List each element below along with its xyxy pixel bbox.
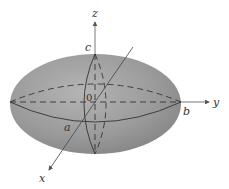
intercept-a-label: a	[64, 121, 71, 134]
x-axis-label: x	[39, 172, 46, 185]
intercept-c-label: c	[85, 41, 91, 54]
y-axis-label: y	[212, 96, 220, 109]
origin-label: 0	[86, 92, 92, 103]
ellipsoid-surface	[10, 54, 181, 154]
z-axis-label: z	[91, 7, 98, 20]
intercept-b-label: b	[183, 105, 190, 118]
ellipsoid-diagram: z y x c b a 0	[0, 0, 229, 189]
